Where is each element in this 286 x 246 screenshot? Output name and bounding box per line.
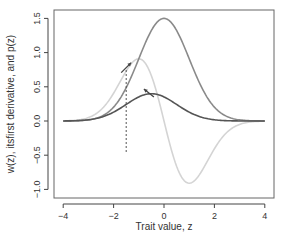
annotation-layer (121, 63, 154, 152)
y-tick-label: −0.5 (32, 146, 42, 164)
y-axis: 1.51.00.50.0−0.5−1.0 (32, 12, 48, 198)
x-tick-label: 0 (161, 211, 166, 221)
series-w-z-line (63, 18, 265, 121)
y-tick-label: 0.0 (32, 115, 42, 128)
x-axis: −4−2024 (58, 204, 267, 221)
y-axis-label: w(z), itsfirst derivative, and p(z) (5, 35, 16, 174)
x-tick-label: 4 (262, 211, 267, 221)
chart: −4−2024 1.51.00.50.0−0.5−1.0 Trait value… (0, 0, 286, 246)
y-tick-label: 1.5 (32, 12, 42, 25)
series-p-z-line (63, 94, 265, 121)
series-layer (63, 18, 265, 183)
x-tick-label: −4 (58, 211, 68, 221)
y-tick-label: −1.0 (32, 181, 42, 199)
x-axis-label: Trait value, z (136, 221, 193, 232)
x-tick-label: 2 (212, 211, 217, 221)
y-tick-label: 0.5 (32, 81, 42, 94)
y-tick-label: 1.0 (32, 46, 42, 59)
x-tick-label: −2 (108, 211, 118, 221)
plot-area (54, 10, 274, 198)
